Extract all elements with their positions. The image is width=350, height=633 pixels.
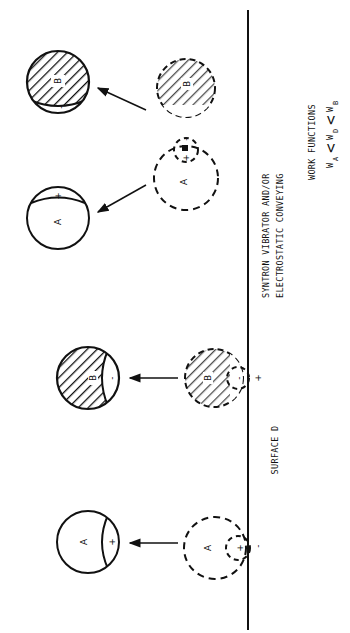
particle-a-label: A xyxy=(53,218,63,225)
particle-a-label: A xyxy=(79,538,89,545)
particle-b-label: B xyxy=(203,375,213,381)
particle-b-label: B xyxy=(182,81,192,87)
plus-sign: + xyxy=(235,544,245,552)
conveying-label-line2: ELECTROSTATIC CONVEYING xyxy=(275,173,285,298)
sub-b: B xyxy=(332,100,340,105)
particle-b-charged: B - xyxy=(27,51,89,120)
minus-sign: - xyxy=(181,137,191,140)
less-than-2: < xyxy=(321,115,340,125)
surface-plus-sign: + xyxy=(253,374,263,382)
arrow-icon xyxy=(98,88,146,110)
particle-a-charged: A + xyxy=(57,511,119,573)
minus-sign: - xyxy=(107,376,117,379)
arrow-icon xyxy=(98,185,146,212)
surface-d-label: SURFACE D xyxy=(270,426,280,475)
particle-b-label: B xyxy=(88,375,98,381)
w-a: W xyxy=(325,162,335,168)
particle-b-contact-dashed: B - xyxy=(185,349,250,407)
particle-a-contact-dashed: A + xyxy=(184,517,250,579)
minus-sign: - xyxy=(234,376,244,379)
work-functions-title: WORK FUNCTIONS xyxy=(307,104,317,180)
contact-point xyxy=(182,145,188,151)
plus-sign: + xyxy=(107,538,117,546)
sub-a: A xyxy=(332,156,340,161)
diagram-canvas: A + - A + B - + B - SURFACE D xyxy=(0,0,350,633)
particle-a-label: A xyxy=(203,544,213,551)
particle-a-label: A xyxy=(179,178,189,185)
work-functions-formula: W A < W D < W B xyxy=(321,100,340,168)
particle-b-label: B xyxy=(53,78,63,84)
minus-sign: - xyxy=(56,105,66,108)
surface-minus-sign: - xyxy=(253,544,263,547)
particle-b-charged: B - xyxy=(57,347,125,409)
sub-d: D xyxy=(332,128,340,133)
w-d: W xyxy=(325,134,335,140)
particle-b-contact-dashed: B - xyxy=(157,59,215,141)
particle-a-charged: A + xyxy=(27,187,89,249)
less-than-1: < xyxy=(321,143,340,153)
plus-sign: + xyxy=(53,192,63,200)
plus-sign: + xyxy=(181,154,191,162)
w-b: W xyxy=(325,106,335,112)
conveying-label-line1: SYNTRON VIBRATOR AND/OR xyxy=(261,173,271,298)
